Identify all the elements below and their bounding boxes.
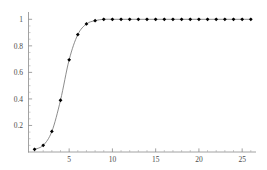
x-axis-tick-label: 5 <box>67 155 71 164</box>
data-point-marker <box>119 17 123 21</box>
data-point-marker <box>154 17 158 21</box>
data-point-marker <box>206 17 210 21</box>
chart-tick-labels: 5101520250.20.40.60.81 <box>14 15 247 163</box>
data-point-marker <box>197 17 201 21</box>
chart-data-points <box>33 17 253 151</box>
chart-axes <box>28 12 256 153</box>
x-axis-tick-label: 25 <box>238 155 246 164</box>
data-point-marker <box>214 17 218 21</box>
data-point-marker <box>188 17 192 21</box>
data-point-marker <box>102 17 106 21</box>
chart-plot-area: 5101520250.20.40.60.81 <box>0 0 267 170</box>
data-point-marker <box>76 33 80 37</box>
x-axis-tick-label: 10 <box>109 155 117 164</box>
y-axis-tick-label: 0.8 <box>14 42 24 51</box>
data-point-marker <box>136 17 140 21</box>
y-axis-tick-label: 0.6 <box>14 68 24 77</box>
data-point-marker <box>162 17 166 21</box>
data-point-marker <box>145 17 149 21</box>
y-axis-tick-label: 1 <box>19 15 23 24</box>
y-axis-tick-label: 0.4 <box>14 95 24 104</box>
chart-data-curve <box>35 19 251 149</box>
data-point-marker <box>128 17 132 21</box>
data-point-marker <box>50 130 54 134</box>
y-axis-tick-label: 0.2 <box>14 121 24 130</box>
data-point-marker <box>223 17 227 21</box>
data-point-marker <box>240 17 244 21</box>
data-point-marker <box>111 17 115 21</box>
chart-ticks <box>29 19 251 152</box>
x-axis-tick-label: 20 <box>195 155 203 164</box>
data-series-line <box>35 19 251 149</box>
data-point-marker <box>249 17 253 21</box>
data-point-marker <box>59 98 63 102</box>
data-point-marker <box>171 17 175 21</box>
data-point-marker <box>180 17 184 21</box>
x-axis-tick-label: 15 <box>152 155 160 164</box>
data-point-marker <box>67 58 71 62</box>
sigmoid-curve-chart: 5101520250.20.40.60.81 <box>0 0 267 170</box>
data-point-marker <box>33 147 37 151</box>
data-point-marker <box>93 19 97 23</box>
data-point-marker <box>232 17 236 21</box>
